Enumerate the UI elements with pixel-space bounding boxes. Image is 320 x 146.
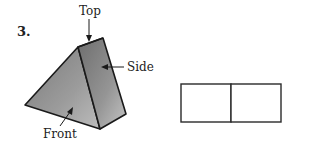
top-arrow-icon bbox=[86, 19, 92, 42]
label-side: Side bbox=[127, 61, 154, 73]
label-front: Front bbox=[43, 128, 77, 140]
answer-grid bbox=[181, 84, 281, 122]
label-top: Top bbox=[79, 5, 101, 17]
answer-cell-left[interactable] bbox=[181, 84, 231, 122]
answer-cell-right[interactable] bbox=[231, 84, 281, 122]
